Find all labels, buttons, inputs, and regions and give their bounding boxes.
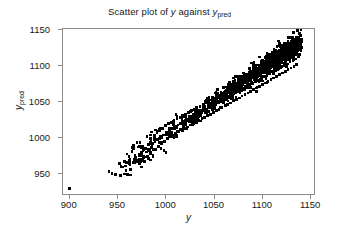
- y-tick-mark: [58, 101, 62, 102]
- chart-title-middle: against: [176, 6, 213, 17]
- y-axis-label-var: y: [13, 105, 24, 110]
- x-tick-label: 950: [97, 199, 137, 210]
- x-axis-label: y: [62, 212, 315, 223]
- x-tick-label: 1150: [290, 199, 330, 210]
- y-tick-mark: [58, 173, 62, 174]
- y-tick-label: 1150: [6, 24, 50, 35]
- chart-title-subscript-pred: pred: [217, 11, 231, 18]
- y-tick-mark: [58, 65, 62, 66]
- chart-title-prefix: Scatter plot of: [108, 6, 171, 17]
- x-tick-mark: [117, 195, 118, 199]
- y-tick-mark: [58, 29, 62, 30]
- y-tick-label: 1000: [6, 132, 50, 143]
- x-tick-mark: [69, 195, 70, 199]
- y-tick-label: 1100: [6, 60, 50, 71]
- x-tick-label: 900: [49, 199, 89, 210]
- plot-area: [62, 28, 315, 195]
- y-axis-label: ypred: [13, 71, 24, 131]
- x-tick-label: 1100: [242, 199, 282, 210]
- y-tick-label: 950: [6, 168, 50, 179]
- scatter-plot-figure: Scatter plot of y against ypred 95010001…: [0, 0, 339, 241]
- x-tick-mark: [214, 195, 215, 199]
- x-tick-mark: [310, 195, 311, 199]
- x-tick-mark: [165, 195, 166, 199]
- x-tick-mark: [262, 195, 263, 199]
- y-tick-mark: [58, 137, 62, 138]
- x-tick-label: 1050: [194, 199, 234, 210]
- scatter-points-layer: [63, 29, 314, 194]
- y-axis-label-subscript-pred: pred: [18, 91, 25, 105]
- x-tick-label: 1000: [145, 199, 185, 210]
- chart-title: Scatter plot of y against ypred: [0, 6, 339, 17]
